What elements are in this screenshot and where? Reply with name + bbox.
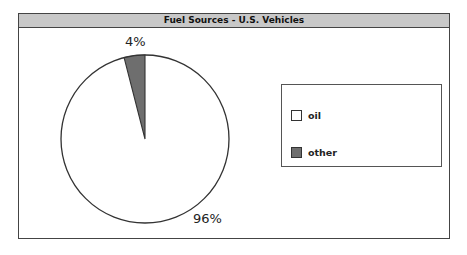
label-other-pct: 4%: [125, 34, 146, 49]
legend-label-oil: oil: [308, 110, 321, 121]
legend-item-oil: oil: [291, 108, 321, 122]
legend-swatch-oil: [291, 110, 302, 121]
legend-item-other: other: [291, 145, 337, 159]
legend-swatch-other: [291, 147, 302, 158]
label-oil-pct: 96%: [193, 211, 222, 226]
legend: oil other: [281, 84, 442, 167]
legend-label-other: other: [308, 147, 337, 158]
